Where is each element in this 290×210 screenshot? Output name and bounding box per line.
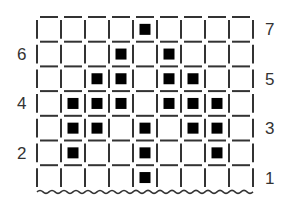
chart-grid: 1234567 bbox=[0, 0, 290, 210]
filled-stitch-cell bbox=[164, 49, 175, 60]
row-label-4: 4 bbox=[17, 94, 26, 113]
filled-stitch-cell bbox=[188, 73, 199, 84]
knitting-chart: 1234567 bbox=[0, 0, 290, 210]
row-label-5: 5 bbox=[265, 70, 274, 89]
filled-stitch-cell bbox=[212, 147, 223, 158]
row-label-3: 3 bbox=[265, 119, 274, 138]
filled-stitch-cell bbox=[92, 73, 103, 84]
row-label-2: 2 bbox=[17, 144, 26, 163]
filled-stitch-cell bbox=[92, 123, 103, 134]
filled-stitch-cell bbox=[140, 24, 151, 35]
filled-stitch-cell bbox=[188, 123, 199, 134]
filled-stitch-cell bbox=[116, 98, 127, 109]
wavy-bottom-edge bbox=[37, 190, 253, 193]
filled-stitch-cell bbox=[140, 123, 151, 134]
row-label-6: 6 bbox=[17, 45, 26, 64]
filled-stitch-cell bbox=[140, 147, 151, 158]
filled-stitch-cell bbox=[164, 98, 175, 109]
filled-stitch-cell bbox=[116, 49, 127, 60]
row-label-7: 7 bbox=[265, 20, 274, 39]
filled-stitch-cell bbox=[68, 147, 79, 158]
filled-stitch-cell bbox=[68, 98, 79, 109]
filled-stitch-cell bbox=[116, 73, 127, 84]
filled-stitch-cell bbox=[212, 98, 223, 109]
filled-stitch-cell bbox=[188, 98, 199, 109]
filled-stitch-cell bbox=[212, 123, 223, 134]
filled-stitch-cell bbox=[92, 98, 103, 109]
row-label-1: 1 bbox=[265, 169, 274, 188]
filled-stitch-cell bbox=[68, 123, 79, 134]
filled-stitch-cell bbox=[164, 73, 175, 84]
filled-stitch-cell bbox=[140, 172, 151, 183]
